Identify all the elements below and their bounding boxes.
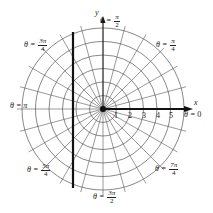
angle-label-7pi-over-4: θ = 7π4 [155, 162, 178, 177]
grid-radial-line [103, 109, 146, 183]
radius-label-1: 1 [114, 111, 118, 120]
grid-radial-line [103, 109, 125, 192]
grid-radial-line [81, 109, 103, 192]
origin-point [100, 106, 106, 112]
polar-grid-diagram [0, 0, 213, 213]
grid-radial-line [103, 87, 186, 109]
radius-label-4: 4 [156, 111, 160, 120]
y-axis-label: y [95, 9, 99, 17]
angle-label-0: θ = 0 [184, 111, 201, 119]
grid-radial-line [103, 66, 177, 109]
angle-label-5pi-over-4: θ = 5π4 [27, 163, 50, 178]
x-axis-label: x [194, 99, 198, 107]
grid-radial-line [103, 35, 146, 109]
grid-radial-line [81, 26, 103, 109]
grid-radial-line [29, 66, 103, 109]
angle-label-3pi-over-2: θ = 3π2 [93, 190, 116, 205]
grid-radial-line [103, 26, 125, 109]
angle-label-pi-over-4: θ = π4 [156, 38, 176, 53]
angle-label-3pi-over-4: θ = 3π4 [24, 38, 47, 53]
grid-radial-line [60, 35, 103, 109]
grid-radial-line [20, 109, 103, 131]
radius-label-3: 3 [142, 111, 146, 120]
radius-label-5: 5 [169, 111, 173, 120]
radius-label-2: 2 [128, 111, 132, 120]
grid-radial-line [20, 87, 103, 109]
y-axis [101, 16, 106, 109]
angle-label-pi: θ = π [10, 102, 27, 110]
grid-radial-line [103, 109, 164, 170]
grid-radial-line [60, 109, 103, 183]
grid-radial-line [103, 48, 164, 109]
grid-radial-line [29, 109, 103, 152]
angle-label-pi-over-2: θ = π2 [100, 14, 120, 29]
